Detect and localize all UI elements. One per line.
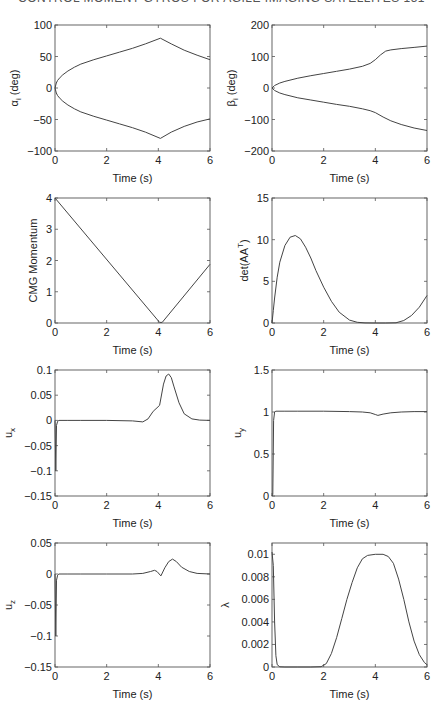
y-tick-label: 0.01 [248,548,269,560]
y-tick-label: −200 [244,145,269,157]
subplot-u-x: 0246−0.15−0.1−0.0500.050.1Time (s)ux [2,364,213,529]
x-tick-label: 2 [321,154,327,166]
x-tick-label: 2 [321,326,327,338]
x-tick-label: 6 [207,326,213,338]
series-line-ux [55,374,210,471]
y-tick-label: 100 [251,51,269,63]
x-axis-label: Time (s) [330,688,370,700]
x-tick-label: 0 [269,499,275,511]
y-tick-label: 0.006 [241,593,269,605]
subplot-u-z: 0246−0.15−0.1−0.0500.05Time (s)uz [2,537,213,700]
x-tick-label: 2 [321,499,327,511]
axes-frame [272,198,427,323]
x-tick-label: 0 [52,154,58,166]
y-tick-label: 2 [46,255,52,267]
x-tick-label: 4 [372,154,378,166]
x-tick-label: 0 [52,499,58,511]
x-tick-label: 2 [104,499,110,511]
series-line-alpha-upper [55,38,210,88]
x-tick-label: 4 [372,670,378,682]
subplot-u-y: 024600.511.5Time (s)uy [231,364,430,529]
series-line-beta-upper [272,46,427,88]
series-line-momentum [55,198,210,322]
y-tick-label: −0.1 [30,630,52,642]
series-line-alpha-lower [55,88,210,138]
x-tick-label: 6 [207,154,213,166]
y-tick-label: −0.05 [24,440,52,452]
x-tick-label: 0 [269,670,275,682]
series-line-uz [55,559,210,636]
y-tick-label: 5 [263,275,269,287]
y-tick-label: 0.002 [241,638,269,650]
x-tick-label: 6 [424,154,430,166]
axes-frame [272,25,427,151]
x-tick-label: 4 [372,499,378,511]
y-tick-label: −50 [33,114,52,126]
x-tick-label: 6 [424,499,430,511]
y-axis-label: uz [2,600,17,610]
y-tick-label: −0.15 [24,661,52,673]
y-tick-label: 0.008 [241,571,269,583]
x-tick-label: 4 [155,154,161,166]
y-tick-label: 10 [257,234,269,246]
y-tick-label: 0 [263,661,269,673]
y-tick-label: 100 [34,19,52,31]
y-tick-label: 0 [263,490,269,502]
y-tick-label: 0.05 [31,389,52,401]
x-axis-label: Time (s) [330,172,370,184]
y-axis-label: ux [2,428,17,438]
y-tick-label: −0.1 [30,465,52,477]
subplot-beta: 0246−200−1000100200Time (s)βi (deg) [225,19,430,184]
axes-frame [55,25,210,151]
y-tick-label: −0.15 [24,490,52,502]
x-tick-label: 6 [424,670,430,682]
subplot-alpha: 0246−100−50050100Time (s)αi (deg) [8,19,213,184]
x-tick-label: 0 [52,670,58,682]
y-tick-label: 1 [46,286,52,298]
axes-frame [272,543,427,667]
x-tick-label: 2 [104,326,110,338]
y-tick-label: 15 [257,192,269,204]
y-tick-label: 0 [46,82,52,94]
y-axis-label: uy [231,428,246,438]
y-axis-label: CMG Momentum [27,219,39,303]
x-tick-label: 0 [269,326,275,338]
x-tick-label: 6 [424,326,430,338]
y-tick-label: 0.004 [241,616,269,628]
y-axis-label: det(AAT) [236,239,250,281]
series-line-det [272,236,427,324]
x-tick-label: 2 [104,154,110,166]
axes-frame [55,543,210,667]
axes-frame [55,198,210,323]
subplot-lambda: 024600.0020.0040.0060.0080.01Time (s)λ [219,543,430,700]
y-tick-label: 50 [40,51,52,63]
y-tick-label: 0.05 [31,537,52,549]
subplot-cmg-momentum: 024601234Time (s)CMG Momentum [27,192,213,356]
x-tick-label: 2 [321,670,327,682]
y-tick-label: −0.05 [24,599,52,611]
y-tick-label: 0 [263,317,269,329]
y-axis-label: λ [219,602,231,608]
x-axis-label: Time (s) [330,517,370,529]
series-line-lambda [272,552,427,667]
y-tick-label: 0 [46,317,52,329]
x-tick-label: 4 [155,326,161,338]
y-axis-label: αi (deg) [8,70,23,107]
x-tick-label: 0 [52,326,58,338]
y-tick-label: 200 [251,19,269,31]
x-tick-label: 0 [269,154,275,166]
y-tick-label: 3 [46,223,52,235]
x-tick-label: 6 [207,499,213,511]
y-tick-label: 1.5 [254,364,269,376]
x-tick-label: 2 [104,670,110,682]
y-tick-label: 0.1 [37,364,52,376]
y-tick-label: 4 [46,192,52,204]
series-line-beta-lower [272,88,427,131]
y-tick-label: 0.5 [254,448,269,460]
axes-frame [272,370,427,496]
x-tick-label: 4 [372,326,378,338]
x-tick-label: 4 [155,499,161,511]
series-line-uy [272,411,427,496]
y-tick-label: 0 [46,568,52,580]
y-tick-label: −100 [27,145,52,157]
